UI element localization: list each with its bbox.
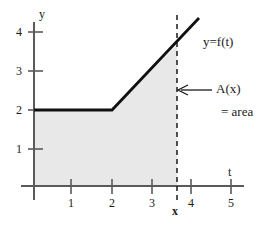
x-tick-label-4: 4 [184, 197, 198, 209]
x-tick-label-3: 3 [145, 197, 159, 209]
area-label: A(x) [216, 82, 241, 95]
y-axis-label: y [39, 8, 45, 20]
x-tick-label-5: 5 [224, 197, 238, 209]
area-sublabel: = area [221, 105, 253, 118]
x-tick-label-2: 2 [105, 197, 119, 209]
y-tick-label-2: 2 [8, 104, 22, 116]
shaded-area-region [34, 45, 177, 186]
x-axis-label: t [228, 166, 231, 178]
curve-label: y=f(t) [203, 35, 233, 48]
area-under-curve-figure: 4 3 2 1 1 2 3 4 5 y t y=f(t) A(x) = area… [0, 0, 271, 227]
x-tick-label-1: 1 [64, 197, 78, 209]
x-marker-label: x [172, 205, 178, 217]
y-tick-label-1: 1 [8, 143, 22, 155]
y-tick-label-3: 3 [8, 65, 22, 77]
y-tick-label-4: 4 [8, 26, 22, 38]
